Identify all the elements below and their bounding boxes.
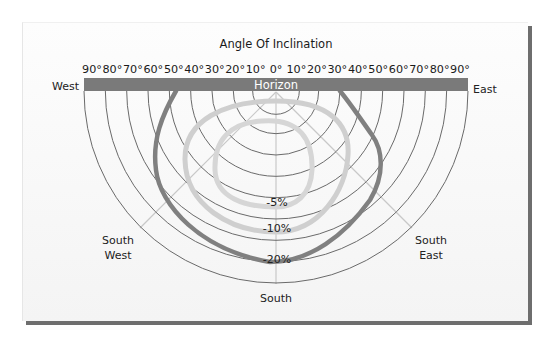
tick-label: 40°: [184, 63, 204, 76]
tick-label: 20°: [225, 63, 245, 76]
diagram-title: Angle Of Inclination: [220, 37, 333, 51]
tick-label: 70°: [123, 63, 143, 76]
curve-label-minus-10: -10%: [263, 222, 291, 235]
tick-label: 80°: [102, 63, 122, 76]
tick-label: 90°: [450, 63, 470, 76]
tick-label: 60°: [143, 63, 163, 76]
tick-label: 70°: [409, 63, 429, 76]
curve-minus-5-percent: [215, 121, 312, 207]
east-label: East: [473, 83, 497, 96]
tick-label: 60°: [389, 63, 409, 76]
curve-label-minus-20: -20%: [263, 253, 291, 266]
radial-line-southeast: [276, 92, 412, 228]
tick-label: 40°: [348, 63, 368, 76]
horizon-label: Horizon: [254, 78, 298, 92]
tick-label: 30°: [205, 63, 225, 76]
loss-curves: [155, 91, 381, 262]
tick-label: 90°: [82, 63, 102, 76]
west-label: West: [52, 80, 80, 93]
tick-label: 50°: [164, 63, 184, 76]
tick-label: 20°: [307, 63, 327, 76]
inclination-diagram: Angle Of Inclination 90°80°70°60°50°40°3…: [0, 0, 552, 341]
angle-tick-labels: 90°80°70°60°50°40°30°20°10°0°10°20°30°40…: [82, 63, 470, 76]
south-west-label-line2: West: [104, 249, 132, 262]
tick-label: 80°: [430, 63, 450, 76]
curve-label-minus-5: -5%: [266, 196, 287, 209]
tick-label: 50°: [368, 63, 388, 76]
tick-label: 10°: [286, 63, 306, 76]
south-east-label-line2: East: [419, 249, 443, 262]
tick-label: 0°: [270, 63, 283, 76]
south-label: South: [260, 292, 292, 305]
tick-label: 30°: [327, 63, 347, 76]
south-east-label-line1: South: [415, 234, 447, 247]
tick-label: 10°: [246, 63, 266, 76]
south-west-label-line1: South: [102, 234, 134, 247]
